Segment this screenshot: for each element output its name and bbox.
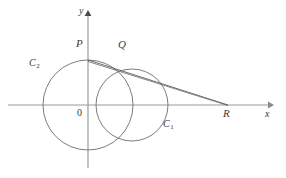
circle-label-c2: C2 <box>29 58 39 68</box>
line-p-to-r <box>88 60 228 105</box>
y-axis-label: y <box>79 6 83 16</box>
point-label-p: P <box>76 38 83 49</box>
circle-label-c1-base: C <box>163 118 170 129</box>
origin-label: 0 <box>77 108 82 118</box>
circle-label-c2-base: C <box>29 57 36 68</box>
circle-label-c1: C1 <box>163 119 173 129</box>
geometry-figure: y x 0 P Q R C2 C1 <box>0 0 286 178</box>
y-axis-arrowhead <box>85 10 92 16</box>
x-axis <box>8 102 274 109</box>
point-label-r: R <box>223 108 230 119</box>
figure-canvas <box>0 0 286 178</box>
y-axis <box>85 10 92 168</box>
point-label-q: Q <box>118 39 126 50</box>
circle-label-c2-subscript: 2 <box>36 62 40 70</box>
x-axis-label: x <box>265 109 269 119</box>
circle-label-c1-subscript: 1 <box>170 123 174 131</box>
line-p-tangent-c1 <box>88 62 228 106</box>
